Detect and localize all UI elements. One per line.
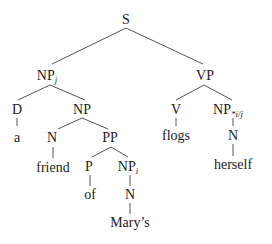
tree-node-s: S xyxy=(122,12,130,27)
tree-node-npi: NPi xyxy=(118,159,139,176)
tree-node-a: a xyxy=(14,130,21,145)
tree-node-npij: NP*i/j xyxy=(213,102,243,119)
tree-node-vp: VP xyxy=(196,68,214,83)
tree-edge xyxy=(126,28,203,64)
syntax-tree-diagram: SNPjVPDNPVNP*i/jaNPPflogsNfriendPNPihers… xyxy=(0,0,272,244)
tree-node-n1: N xyxy=(47,130,57,145)
tree-node-marys: Mary’s xyxy=(110,215,150,230)
tree-edge xyxy=(82,118,108,129)
tree-node-of: of xyxy=(84,187,96,202)
tree-edge xyxy=(92,147,111,157)
tree-node-d: D xyxy=(12,102,22,117)
tree-edge xyxy=(58,118,82,129)
tree-node-n3: N xyxy=(228,128,238,143)
tree-node-v: V xyxy=(171,102,181,117)
tree-node-herself: herself xyxy=(214,157,252,172)
tree-edge xyxy=(176,85,204,100)
tree-node-n2: N xyxy=(125,187,135,202)
node-subscript: j xyxy=(54,75,58,85)
tree-edge xyxy=(50,85,85,100)
tree-nodes: SNPjVPDNPVNP*i/jaNPPflogsNfriendPNPihers… xyxy=(12,12,252,230)
tree-node-npj: NPj xyxy=(37,68,58,85)
tree-edge xyxy=(52,28,126,64)
tree-edge xyxy=(18,85,50,100)
tree-node-flogs: flogs xyxy=(162,128,190,143)
tree-node-pp: PP xyxy=(102,130,118,145)
tree-edge xyxy=(204,85,232,100)
tree-node-p: P xyxy=(85,159,93,174)
node-subscript: i xyxy=(136,166,139,176)
node-subscript: *i/j xyxy=(231,109,244,119)
tree-node-friend: friend xyxy=(36,160,69,175)
tree-node-np2: NP xyxy=(73,102,91,117)
tree-edge xyxy=(111,147,128,157)
